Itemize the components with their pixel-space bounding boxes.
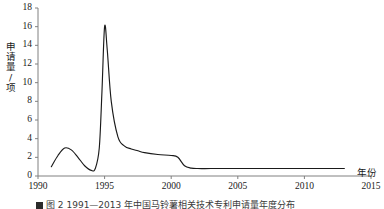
x-axis-tick-label: 1995: [95, 181, 114, 191]
x-axis-tick-label: 2015: [362, 181, 381, 191]
x-axis-tick-label: 2010: [295, 181, 314, 191]
figure-caption: 图 2 1991—2013 年中国马铃薯相关技术专利申请量年度分布: [36, 200, 366, 209]
x-axis-tick-label: 2000: [162, 181, 181, 191]
x-axis-title: 年份: [357, 168, 377, 178]
x-axis-tick-label: 1990: [29, 181, 48, 191]
caption-text: 图 2 1991—2013 年中国马铃薯相关技术专利申请量年度分布: [46, 200, 295, 209]
chart-figure: 申请量/项 024681012141618 199019952000200520…: [0, 0, 384, 209]
x-axis-tick-labels: 199019952000200520102015: [0, 0, 384, 209]
x-axis-tick-label: 2005: [228, 181, 247, 191]
caption-marker-icon: [36, 202, 43, 209]
